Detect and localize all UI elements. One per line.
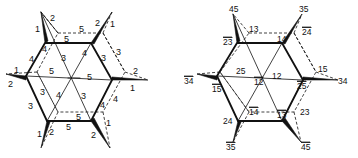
edge-label: 1 bbox=[106, 118, 111, 128]
edge-label: 3 bbox=[40, 87, 45, 97]
edge-label: 3 bbox=[28, 101, 33, 111]
vertex-label: 14 bbox=[249, 107, 259, 117]
edge-label: 4 bbox=[42, 44, 47, 54]
dashed-edge bbox=[294, 33, 316, 72]
edge-label: 2 bbox=[133, 66, 138, 76]
spike bbox=[233, 14, 240, 43]
edge-label: 5 bbox=[87, 72, 92, 82]
edge-label: 2 bbox=[8, 79, 13, 89]
dashed-hexagon bbox=[220, 33, 316, 112]
edge-label: 4 bbox=[113, 94, 118, 104]
vertex-label: 15 bbox=[318, 64, 328, 74]
vertex-label: 34 bbox=[184, 76, 194, 86]
vertex-label: 35 bbox=[226, 142, 236, 152]
edge-label: 1 bbox=[130, 83, 135, 93]
vertex-label: 23 bbox=[223, 37, 233, 47]
vertex-label: 23 bbox=[300, 107, 310, 117]
spike bbox=[91, 12, 112, 44]
edge-label: 3 bbox=[101, 53, 106, 63]
spike bbox=[282, 118, 301, 142]
vertex-label: 13 bbox=[277, 110, 287, 120]
vertex-label: 15 bbox=[212, 84, 222, 94]
edge-label: 1 bbox=[14, 65, 19, 75]
edge-label: 4 bbox=[29, 54, 34, 64]
dashed-edge bbox=[103, 33, 125, 72]
vertex-label: 12 bbox=[272, 71, 282, 81]
vertex-label: 35 bbox=[299, 4, 309, 14]
dashed-edge bbox=[6, 72, 37, 74]
vertex-label: 14 bbox=[277, 34, 287, 44]
dashed-edge bbox=[197, 72, 220, 74]
edge-label: 2 bbox=[95, 18, 100, 28]
figure-canvas: 1 2 5 5 2 1 4 4 3 4 3 3 1 5 5 2 2 1 3 4 … bbox=[0, 0, 358, 158]
edge-label: 2 bbox=[91, 130, 96, 140]
edge-label: 4 bbox=[100, 100, 105, 110]
edge-label: 5 bbox=[64, 34, 69, 44]
vertex-label: 34 bbox=[338, 76, 348, 86]
edge-label: 5 bbox=[79, 24, 84, 34]
spike bbox=[233, 121, 241, 142]
right-diagram: 45 35 13 24 23 14 25 15 34 12 12 34 25 1… bbox=[184, 4, 348, 152]
edge-label: 4 bbox=[56, 90, 61, 100]
overlines bbox=[184, 27, 311, 142]
vertex-label: 25 bbox=[297, 81, 307, 91]
edge-label: 2 bbox=[49, 127, 54, 137]
vertex-label: 12 bbox=[254, 77, 264, 87]
vertex-label: 13 bbox=[249, 24, 259, 34]
vertex-label: 24 bbox=[302, 27, 312, 37]
edge-label: 4 bbox=[82, 48, 87, 58]
vertex-label: 25 bbox=[236, 66, 246, 76]
edge-label: 1 bbox=[37, 129, 42, 139]
edge-label: 3 bbox=[61, 53, 66, 63]
edge-label: 5 bbox=[76, 112, 81, 122]
edge-label: 5 bbox=[66, 122, 71, 132]
edge-label: 1 bbox=[110, 19, 115, 29]
vertex-label: 45 bbox=[301, 142, 311, 152]
edge-label: 3 bbox=[81, 91, 86, 101]
edge-label: 3 bbox=[116, 47, 121, 57]
edge-label: 2 bbox=[50, 13, 55, 23]
spike bbox=[112, 77, 148, 80]
vertex-label: 45 bbox=[229, 4, 239, 14]
edge-label: 5 bbox=[49, 66, 54, 76]
vertex-label: 24 bbox=[223, 116, 233, 126]
spike bbox=[197, 74, 217, 80]
left-diagram: 1 2 5 5 2 1 4 4 3 4 3 3 1 5 5 2 2 1 3 4 … bbox=[6, 12, 148, 148]
edge-label: 1 bbox=[35, 24, 40, 34]
